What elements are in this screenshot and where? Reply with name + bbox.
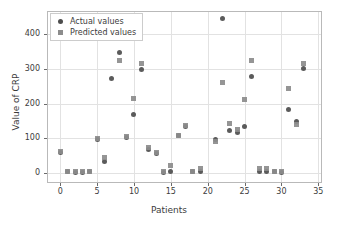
gridline-vertical xyxy=(171,12,172,182)
x-axis-tick xyxy=(171,183,172,186)
scatter-chart-figure: Value of CRP Patients Actual values Pred… xyxy=(0,0,338,236)
x-axis-title: Patients xyxy=(0,205,338,215)
data-point-predicted xyxy=(213,139,218,144)
data-point-predicted xyxy=(220,80,225,85)
x-axis-tick-label: 5 xyxy=(82,187,112,196)
y-axis-tick-label: 0 xyxy=(10,168,40,177)
data-point-predicted xyxy=(139,61,144,66)
data-point-predicted xyxy=(190,169,195,174)
chart-legend: Actual values Predicted values xyxy=(50,13,143,41)
data-point-predicted xyxy=(249,58,254,63)
data-point-predicted xyxy=(272,169,277,174)
y-axis-tick xyxy=(44,34,47,35)
y-axis-tick-label: 200 xyxy=(10,99,40,108)
data-point-predicted xyxy=(65,169,70,174)
x-axis-tick xyxy=(245,183,246,186)
gridline-vertical xyxy=(208,12,209,182)
data-point-predicted xyxy=(117,58,122,63)
y-axis-tick-label: 300 xyxy=(10,64,40,73)
data-point-predicted xyxy=(286,86,291,91)
data-point-predicted xyxy=(198,166,203,171)
legend-item-actual: Actual values xyxy=(55,17,136,26)
x-axis-tick xyxy=(60,183,61,186)
x-axis-tick-label: 10 xyxy=(119,187,149,196)
data-point-predicted xyxy=(73,169,78,174)
data-point-predicted xyxy=(102,155,107,160)
gridline-horizontal xyxy=(48,138,321,139)
y-axis-tick xyxy=(44,104,47,105)
data-point-actual xyxy=(286,107,291,112)
x-axis-tick xyxy=(134,183,135,186)
data-point-predicted xyxy=(131,96,136,101)
x-axis-tick-label: 35 xyxy=(303,187,333,196)
x-axis-tick-label: 0 xyxy=(45,187,75,196)
y-axis-tick xyxy=(44,173,47,174)
data-point-predicted xyxy=(294,122,299,127)
legend-label-predicted: Predicted values xyxy=(70,28,136,37)
data-point-predicted xyxy=(154,150,159,155)
y-axis-tick xyxy=(44,138,47,139)
gridline-horizontal xyxy=(48,104,321,105)
y-axis-tick-label: 400 xyxy=(10,29,40,38)
x-axis-tick-label: 15 xyxy=(156,187,186,196)
data-point-predicted xyxy=(58,149,63,154)
x-axis-tick xyxy=(97,183,98,186)
data-point-predicted xyxy=(257,166,262,171)
legend-item-predicted: Predicted values xyxy=(55,28,136,37)
data-point-predicted xyxy=(168,163,173,168)
data-point-predicted xyxy=(124,134,129,139)
x-axis-tick-label: 20 xyxy=(193,187,223,196)
x-axis-tick-label: 25 xyxy=(230,187,260,196)
data-point-predicted xyxy=(146,145,151,150)
data-point-predicted xyxy=(95,136,100,141)
data-point-predicted xyxy=(227,121,232,126)
data-point-actual xyxy=(139,67,144,72)
data-point-predicted xyxy=(242,97,247,102)
data-point-predicted xyxy=(264,166,269,171)
data-point-predicted xyxy=(301,61,306,66)
data-point-predicted xyxy=(161,169,166,174)
data-point-predicted xyxy=(183,123,188,128)
data-point-predicted xyxy=(235,127,240,132)
y-axis-tick-label: 100 xyxy=(10,133,40,142)
y-axis-tick xyxy=(44,69,47,70)
data-point-predicted xyxy=(80,169,85,174)
gridline-vertical xyxy=(281,12,282,182)
data-point-predicted xyxy=(87,169,92,174)
x-axis-tick xyxy=(208,183,209,186)
x-axis-tick xyxy=(281,183,282,186)
data-point-predicted xyxy=(176,133,181,138)
square-marker-icon xyxy=(58,30,63,35)
circle-marker-icon xyxy=(58,19,63,24)
gridline-vertical xyxy=(318,12,319,182)
x-axis-tick xyxy=(318,183,319,186)
legend-label-actual: Actual values xyxy=(70,17,124,26)
gridline-horizontal xyxy=(48,69,321,70)
x-axis-tick-label: 30 xyxy=(266,187,296,196)
data-point-predicted xyxy=(279,169,284,174)
